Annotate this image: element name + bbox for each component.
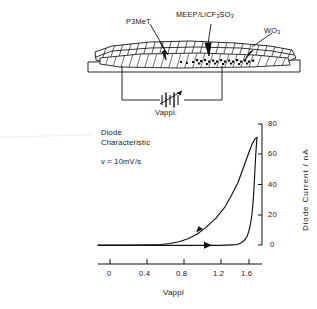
curve-forward-sweep — [98, 137, 257, 245]
xtick-label-1-6: 1.6 — [241, 269, 252, 278]
arrow-forward-sweep — [196, 226, 203, 232]
ytick-label-80: 80 — [268, 119, 277, 128]
y-axis — [258, 124, 262, 245]
x-axis — [98, 259, 262, 264]
chart-title-line1: Diode — [101, 128, 122, 137]
xtick-label-1-2: 1.2 — [213, 269, 224, 278]
ytick-label-0: 0 — [270, 240, 274, 249]
xtick-label-0-4: 0.4 — [139, 269, 150, 278]
ytick-label-20: 20 — [268, 210, 277, 219]
xtick-label-0: 0 — [107, 269, 111, 278]
chart-scan-rate: v = 10mV/s — [101, 157, 141, 166]
ytick-label-40: 40 — [268, 180, 277, 189]
chart-title-line2: Characteristic — [101, 138, 150, 147]
x-axis-title: Vappl — [163, 288, 184, 298]
ytick-label-60: 60 — [268, 149, 277, 158]
arrow-reverse-sweep — [204, 242, 212, 249]
y-axis-title: Diode Current / nA — [301, 149, 311, 231]
xtick-label-0-8: 0.8 — [176, 269, 187, 278]
scan-artifact-line — [0, 135, 92, 137]
figure-root: P3MeT MEEP/LiCF3SO3 WO3 Vappl. — [0, 0, 317, 309]
